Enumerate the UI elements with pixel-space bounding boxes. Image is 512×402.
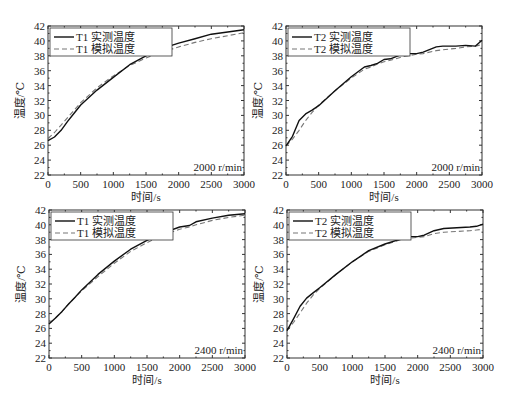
- x-tick-label: 1000: [103, 361, 126, 373]
- y-tick-label: 28: [273, 308, 285, 320]
- y-tick-label: 32: [273, 278, 284, 290]
- y-tick-label: 26: [34, 139, 46, 151]
- x-axis-title: 时间/s: [369, 191, 398, 203]
- x-axis-title: 时间/s: [132, 374, 161, 386]
- chart-panel-top-left: 2224262830323436384042050010001500200025…: [13, 20, 256, 203]
- x-tick-label: 3000: [233, 178, 256, 190]
- y-tick-label: 40: [273, 219, 285, 231]
- y-tick-label: 30: [273, 293, 285, 305]
- chart-panel-bottom-right: 2224262830323436384042050010001500200025…: [252, 204, 495, 386]
- y-tick-label: 24: [35, 337, 47, 349]
- chart-panel-bottom-left: 2224262830323436384042050010001500200025…: [14, 204, 257, 386]
- x-tick-label: 2000: [168, 178, 191, 190]
- y-tick-label: 38: [35, 234, 47, 246]
- y-tick-label: 36: [272, 65, 284, 77]
- x-tick-label: 1000: [102, 178, 125, 190]
- x-tick-label: 1500: [373, 178, 396, 190]
- speed-annotation: 2000 r/min: [193, 161, 242, 173]
- y-tick-label: 34: [273, 263, 285, 275]
- y-tick-label: 36: [34, 65, 46, 77]
- x-tick-label: 1000: [340, 178, 363, 190]
- x-tick-label: 2000: [406, 178, 429, 190]
- speed-annotation: 2000 r/min: [431, 161, 480, 173]
- legend-label: T2 模拟温度: [315, 226, 374, 239]
- legend-label: T1 实测温度: [77, 214, 136, 227]
- y-tick-label: 42: [272, 20, 283, 32]
- y-tick-label: 32: [35, 278, 46, 290]
- y-axis-title: 温度/℃: [14, 265, 27, 302]
- y-tick-label: 22: [34, 169, 45, 181]
- x-tick-label: 2000: [169, 361, 192, 373]
- x-tick-label: 3000: [234, 361, 257, 373]
- y-tick-label: 24: [272, 154, 284, 166]
- legend-label: T1 实测温度: [76, 30, 135, 43]
- y-tick-label: 42: [34, 20, 45, 32]
- y-tick-label: 42: [35, 204, 46, 216]
- y-tick-label: 38: [273, 234, 285, 246]
- y-tick-label: 26: [273, 322, 285, 334]
- legend-label: T1 模拟温度: [76, 42, 135, 55]
- y-tick-label: 34: [34, 80, 46, 92]
- legend-label: T1 模拟温度: [77, 226, 136, 239]
- x-tick-label: 0: [283, 178, 289, 190]
- x-tick-label: 500: [311, 361, 328, 373]
- speed-annotation: 2400 r/min: [194, 344, 243, 356]
- y-tick-label: 40: [272, 35, 284, 47]
- y-tick-label: 30: [35, 293, 47, 305]
- x-tick-label: 0: [46, 361, 52, 373]
- x-tick-label: 3000: [472, 361, 495, 373]
- x-tick-label: 2500: [439, 361, 462, 373]
- x-tick-label: 0: [284, 361, 290, 373]
- x-tick-label: 1500: [374, 361, 397, 373]
- y-tick-label: 26: [35, 322, 47, 334]
- y-tick-label: 42: [273, 204, 284, 216]
- y-tick-label: 30: [272, 109, 284, 121]
- y-tick-label: 24: [273, 337, 285, 349]
- x-tick-label: 500: [310, 178, 327, 190]
- legend: T2 实测温度T2 模拟温度: [288, 28, 410, 56]
- x-tick-label: 1500: [136, 361, 159, 373]
- legend-label: T2 实测温度: [314, 30, 373, 43]
- y-axis-title: 温度/℃: [13, 82, 26, 119]
- legend: T1 实测温度T1 模拟温度: [51, 212, 173, 240]
- y-tick-label: 40: [35, 219, 47, 231]
- y-tick-label: 28: [34, 124, 46, 136]
- chart-panel-top-right: 2224262830323436384042050010001500200025…: [251, 20, 494, 203]
- y-tick-label: 36: [273, 248, 285, 260]
- x-tick-label: 1500: [135, 178, 158, 190]
- y-tick-label: 28: [35, 308, 47, 320]
- y-tick-label: 38: [34, 50, 46, 62]
- y-tick-label: 28: [272, 124, 284, 136]
- y-tick-label: 22: [273, 352, 284, 364]
- speed-annotation: 2400 r/min: [432, 344, 481, 356]
- x-axis-title: 时间/s: [131, 191, 160, 203]
- x-tick-label: 2500: [201, 361, 224, 373]
- legend: T2 实测温度T2 模拟温度: [289, 212, 411, 240]
- y-tick-label: 26: [272, 139, 284, 151]
- y-tick-label: 22: [35, 352, 46, 364]
- y-tick-label: 22: [272, 169, 283, 181]
- x-axis-title: 时间/s: [370, 374, 399, 386]
- x-tick-label: 1000: [341, 361, 364, 373]
- y-tick-label: 34: [272, 80, 284, 92]
- y-axis-title: 温度/℃: [251, 82, 264, 119]
- legend-label: T2 实测温度: [315, 214, 374, 227]
- y-tick-label: 34: [35, 263, 47, 275]
- x-tick-label: 2500: [200, 178, 223, 190]
- legend-label: T2 模拟温度: [314, 42, 373, 55]
- y-tick-label: 30: [34, 109, 46, 121]
- y-tick-label: 40: [34, 35, 46, 47]
- x-tick-label: 3000: [471, 178, 494, 190]
- y-axis-title: 温度/℃: [252, 265, 265, 302]
- x-tick-label: 2000: [407, 361, 430, 373]
- y-tick-label: 24: [34, 154, 46, 166]
- x-tick-label: 500: [72, 178, 89, 190]
- x-tick-label: 2500: [438, 178, 461, 190]
- y-tick-label: 36: [35, 248, 47, 260]
- y-tick-label: 38: [272, 50, 284, 62]
- x-tick-label: 0: [45, 178, 51, 190]
- chart-figure: 2224262830323436384042050010001500200025…: [0, 0, 512, 402]
- y-tick-label: 32: [272, 95, 283, 107]
- y-tick-label: 32: [34, 95, 45, 107]
- legend: T1 实测温度T1 模拟温度: [50, 28, 172, 56]
